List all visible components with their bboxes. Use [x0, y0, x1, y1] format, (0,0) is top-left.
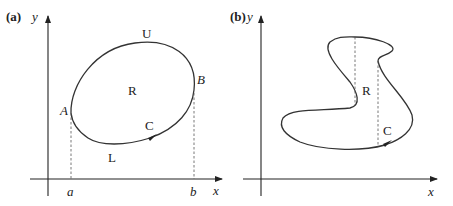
panel-b-curve-c: [281, 37, 412, 149]
panel-a-tick-b: b: [190, 184, 197, 199]
panel-a-region-label: R: [128, 83, 137, 98]
panel-b-x-label: x: [427, 184, 434, 199]
panel-a-point-b: B: [197, 72, 205, 87]
panel-a-curve-label: C: [145, 118, 154, 133]
panel-a-tick-a: a: [67, 184, 74, 199]
panel-a-tag: (a): [6, 9, 21, 24]
panel-b-curve-label: C: [383, 123, 392, 138]
panel-a-point-a: A: [59, 103, 68, 118]
panel-a-upper-label: U: [142, 26, 152, 41]
panel-a-lower-label: L: [108, 150, 116, 165]
panel-a-x-label: x: [212, 183, 219, 198]
panel-a-direction-arrow-icon: [148, 134, 157, 141]
panel-a-y-label: y: [30, 9, 38, 24]
panel-b: (b) y x R C: [230, 9, 437, 199]
panel-b-tag: (b): [230, 9, 246, 24]
panel-b-region-label: R: [362, 83, 371, 98]
diagram-canvas: (a) y x U R C L A B a b (b) y x R C: [0, 0, 453, 206]
panel-a: (a) y x U R C L A B a b: [6, 9, 222, 199]
panel-b-y-label: y: [245, 9, 253, 24]
